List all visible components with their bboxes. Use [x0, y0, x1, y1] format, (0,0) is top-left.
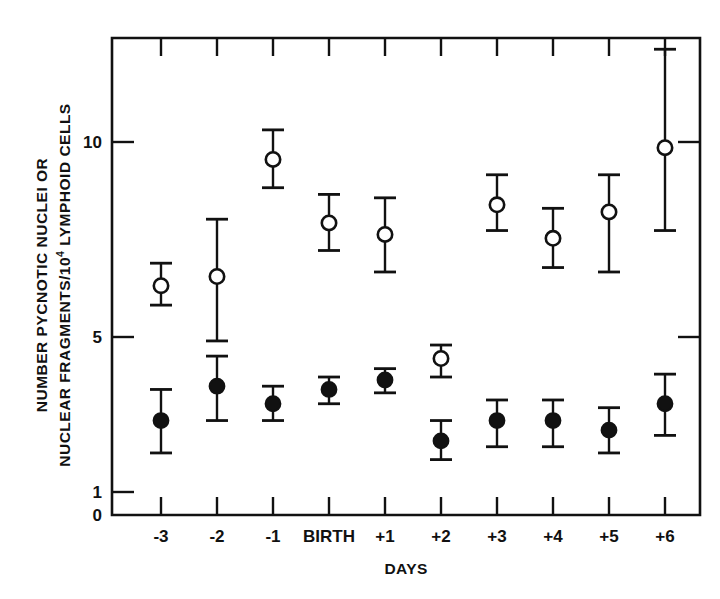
- y-axis-label-line2-post: LYMPHOID CELLS: [56, 103, 73, 250]
- marker-open-circle: [490, 198, 504, 212]
- y-tick-label-1: 1: [93, 483, 102, 502]
- marker-open-circle: [602, 205, 616, 219]
- series-filled-circles: [150, 356, 676, 459]
- data-point-open-circles-+6: [654, 49, 676, 230]
- marker-filled-circle: [266, 396, 281, 411]
- chart-canvas: 01510 -3-2-1BIRTH+1+2+3+4+5+6 DAYS NUMBE…: [0, 0, 720, 599]
- x-tick-label-+6: +6: [655, 527, 674, 546]
- y-tick-label-0: 0: [93, 506, 102, 525]
- data-point-open-circles-+4: [542, 208, 564, 267]
- x-axis-ticks: [161, 497, 665, 515]
- data-point-filled-circles-+5: [598, 408, 620, 453]
- x-tick-label--3: -3: [153, 527, 168, 546]
- marker-open-circle: [378, 227, 392, 241]
- marker-filled-circle: [434, 433, 449, 448]
- data-point-open-circles--2: [206, 219, 228, 341]
- y-axis-label: NUMBER PYCNOTIC NUCLEI OR NUCLEAR FRAGME…: [33, 103, 73, 466]
- y-axis-label-line2-pre: NUCLEAR FRAGMENTS/10: [56, 257, 73, 467]
- top-axis-ticks: [161, 38, 665, 56]
- plot-frame: [112, 38, 700, 515]
- data-point-filled-circles-+3: [486, 400, 508, 447]
- y-axis-label-line2: NUCLEAR FRAGMENTS/104 LYMPHOID CELLS: [54, 103, 73, 466]
- x-axis-label: DAYS: [384, 560, 427, 577]
- marker-filled-circle: [154, 413, 169, 428]
- marker-filled-circle: [546, 413, 561, 428]
- data-point-filled-circles--3: [150, 389, 172, 452]
- data-point-open-circles-+3: [486, 175, 508, 231]
- right-axis-ticks: [678, 142, 700, 337]
- y-axis-tick-labels: 01510: [83, 133, 102, 525]
- data-point-open-circles-+1: [374, 198, 396, 272]
- data-point-open-circles-+2: [430, 345, 452, 377]
- x-tick-label-+5: +5: [599, 527, 618, 546]
- marker-filled-circle: [322, 382, 337, 397]
- data-point-filled-circles--1: [262, 386, 284, 420]
- data-point-filled-circles-+4: [542, 400, 564, 447]
- x-tick-label--2: -2: [209, 527, 224, 546]
- marker-open-circle: [546, 231, 560, 245]
- data-point-open-circles--1: [262, 130, 284, 188]
- marker-open-circle: [210, 269, 224, 283]
- chart-figure: 01510 -3-2-1BIRTH+1+2+3+4+5+6 DAYS NUMBE…: [0, 0, 720, 599]
- data-point-open-circles-BIRTH: [318, 194, 340, 250]
- marker-open-circle: [322, 216, 336, 230]
- data-point-filled-circles--2: [206, 356, 228, 420]
- series-open-circles: [150, 49, 676, 377]
- marker-open-circle: [266, 152, 280, 166]
- data-point-filled-circles-+2: [430, 421, 452, 460]
- y-tick-label-5: 5: [93, 328, 102, 347]
- y-axis-label-line1: NUMBER PYCNOTIC NUCLEI OR: [33, 158, 50, 412]
- x-axis-tick-labels: -3-2-1BIRTH+1+2+3+4+5+6: [153, 527, 674, 546]
- data-point-filled-circles-+6: [654, 374, 676, 435]
- x-tick-label-+3: +3: [487, 527, 506, 546]
- marker-filled-circle: [658, 396, 673, 411]
- x-tick-label-+2: +2: [431, 527, 450, 546]
- x-tick-label-+1: +1: [375, 527, 394, 546]
- marker-filled-circle: [378, 373, 393, 388]
- data-point-filled-circles-BIRTH: [318, 377, 340, 404]
- marker-open-circle: [434, 351, 448, 365]
- marker-filled-circle: [602, 423, 617, 438]
- marker-filled-circle: [210, 379, 225, 394]
- data-point-filled-circles-+1: [374, 369, 396, 393]
- data-point-open-circles--3: [150, 263, 172, 305]
- x-tick-label-BIRTH: BIRTH: [303, 527, 355, 546]
- marker-filled-circle: [490, 413, 505, 428]
- marker-open-circle: [658, 140, 672, 154]
- y-tick-label-10: 10: [83, 133, 102, 152]
- y-axis-ticks: [112, 142, 134, 492]
- x-tick-label--1: -1: [265, 527, 280, 546]
- marker-open-circle: [154, 279, 168, 293]
- x-tick-label-+4: +4: [543, 527, 563, 546]
- data-point-open-circles-+5: [598, 175, 620, 272]
